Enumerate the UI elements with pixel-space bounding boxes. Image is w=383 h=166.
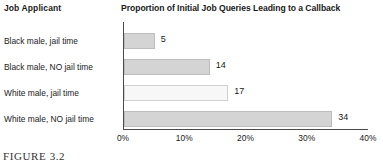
bar-value-label: 17 (234, 86, 244, 96)
plot-area: 5141734 (123, 22, 368, 130)
x-axis-tick-label: 10% (176, 133, 193, 143)
bar-value-label: 34 (338, 112, 348, 122)
category-label: White male, NO jail time (4, 114, 94, 124)
bar-row: 5 (124, 33, 369, 49)
bar-row: 17 (124, 85, 369, 101)
bar (124, 59, 210, 75)
category-label: White male, jail time (4, 88, 79, 98)
bar (124, 111, 332, 127)
bar (124, 33, 155, 49)
category-label: Black male, NO jail time (4, 62, 93, 72)
bar-row: 14 (124, 59, 369, 75)
x-axis-tick-label: 30% (298, 133, 315, 143)
x-axis-tick-label: 0% (117, 133, 129, 143)
bar-value-label: 14 (216, 60, 226, 70)
chart-title: Proportion of Initial Job Queries Leadin… (121, 3, 340, 13)
x-axis-tick-label: 40% (360, 133, 377, 143)
bar-value-label: 5 (161, 34, 166, 44)
category-column-header: Job Applicant (4, 3, 61, 13)
x-axis-tick-label: 20% (237, 133, 254, 143)
category-label: Black male, jail time (4, 36, 78, 46)
figure-container: Job Applicant Proportion of Initial Job … (0, 0, 383, 166)
bar-row: 34 (124, 111, 369, 127)
x-axis-line (123, 129, 368, 130)
bar (124, 85, 228, 101)
figure-caption: FIGURE 3.2 (3, 150, 65, 162)
